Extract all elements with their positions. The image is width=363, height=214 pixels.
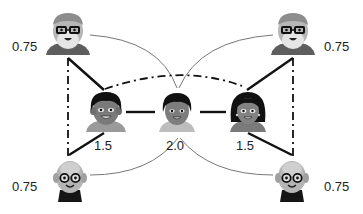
family-network-diagram: 0.75 0.75 1.5 2.0 1.5 0.75 0.75: [0, 0, 363, 214]
elder-bald-bottom-left-avatar: [53, 161, 87, 202]
weight-label-boy: 1.5: [94, 138, 112, 153]
weight-label-elder-br: 0.75: [324, 179, 349, 194]
elder-bald-bottom-right-avatar: [275, 161, 309, 202]
edge-elder-tr-woman: [247, 58, 293, 90]
edge-elder-tl-boy: [68, 58, 104, 90]
woman-right-avatar: [230, 92, 266, 132]
edge-woman-elder-br: [248, 133, 292, 155]
elder-man-top-right-avatar: [271, 13, 315, 55]
child-center-avatar: [159, 93, 195, 132]
weight-label-woman: 1.5: [236, 138, 254, 153]
weight-label-elder-bl: 0.75: [12, 179, 37, 194]
elder-man-top-left-avatar: [46, 13, 90, 55]
boy-left-avatar: [86, 92, 126, 132]
edge-boy-woman-dashed: [105, 75, 242, 89]
edge-elder-tl-child: [90, 35, 177, 88]
edge-elder-br-child: [180, 138, 273, 175]
weight-label-elder-tr: 0.75: [324, 39, 349, 54]
weight-label-elder-tl: 0.75: [12, 39, 37, 54]
weight-label-child: 2.0: [166, 138, 184, 153]
edge-elder-tr-child: [179, 35, 273, 88]
